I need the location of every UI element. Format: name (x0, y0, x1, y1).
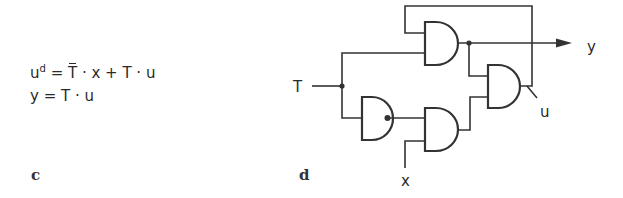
t-branch-down (342, 86, 362, 118)
label-u: u (540, 103, 550, 121)
x-input-wire (405, 141, 425, 168)
junction-dot-t (339, 83, 344, 88)
u-tick (527, 86, 537, 98)
logic-circuit: T x y u (0, 0, 623, 198)
and-gate-middle (425, 108, 458, 151)
and-gate-top (425, 22, 458, 65)
label-t: T (292, 78, 303, 96)
label-y: y (587, 38, 596, 56)
arrow-head-icon (556, 39, 572, 48)
and-to-or-wire (458, 97, 488, 130)
label-x: x (401, 172, 410, 190)
y-to-or-wire (469, 43, 488, 76)
inversion-bubble (385, 115, 391, 121)
or-gate-right (488, 65, 520, 108)
t-branch-up (342, 53, 425, 86)
